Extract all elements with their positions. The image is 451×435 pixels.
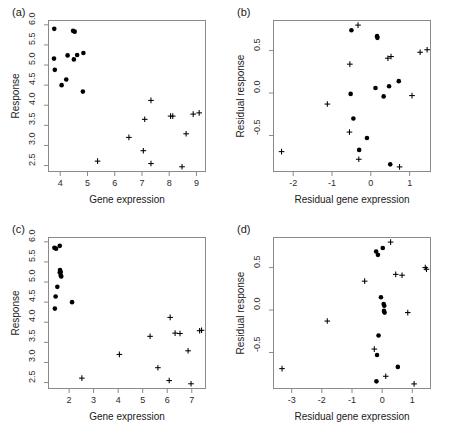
panel-d: (d) Residual gene expression Residual re…	[225, 217, 450, 434]
data-point-dot	[81, 51, 86, 56]
data-point-cross	[196, 110, 202, 116]
data-point-dot	[81, 89, 86, 94]
panel-b-yaxis-title: Residual response	[235, 55, 246, 138]
x-tick-label: 9	[194, 178, 199, 188]
data-point-dot	[70, 300, 75, 305]
data-point-cross	[95, 158, 101, 164]
data-point-cross	[399, 272, 405, 278]
data-point-dot	[396, 365, 401, 370]
data-point-cross	[347, 129, 353, 135]
x-tick-label: -1	[328, 178, 336, 188]
data-point-cross	[166, 378, 172, 384]
data-point-cross	[409, 93, 415, 99]
data-point-cross	[79, 375, 85, 381]
data-point-dot	[54, 246, 59, 251]
data-point-dot	[379, 295, 384, 300]
x-tick-label: 5	[85, 178, 90, 188]
data-point-cross	[356, 156, 362, 162]
data-point-dot	[53, 306, 58, 311]
panel-c-yaxis-title: Response	[10, 290, 21, 335]
data-point-dot	[52, 56, 57, 61]
data-point-dot	[376, 333, 381, 338]
x-tick-label: -2	[318, 395, 326, 405]
data-point-cross	[355, 22, 361, 28]
panel-c: (c) Gene expression Response 2345672.53.…	[0, 217, 225, 434]
data-point-dot	[388, 162, 393, 167]
data-point-dot	[58, 273, 63, 278]
data-point-dot	[396, 79, 401, 84]
data-point-cross	[126, 135, 132, 141]
data-point-cross	[188, 381, 194, 387]
data-point-dot	[55, 285, 60, 290]
x-tick-label: 0	[380, 395, 385, 405]
x-tick-label: -1	[348, 395, 356, 405]
data-point-cross	[362, 278, 368, 284]
data-point-dot	[382, 303, 387, 308]
data-point-dot	[365, 136, 370, 141]
data-point-dot	[65, 53, 70, 58]
data-point-cross	[397, 164, 403, 170]
panel-d-yaxis-title: Residual response	[235, 272, 246, 355]
data-point-dot	[375, 353, 380, 358]
data-point-dot	[72, 29, 77, 34]
data-point-dot	[381, 94, 386, 99]
data-point-dot	[75, 53, 80, 58]
data-point-cross	[167, 315, 173, 321]
data-point-cross	[179, 164, 185, 170]
data-point-dot	[349, 28, 354, 33]
data-point-dot	[373, 86, 378, 91]
data-point-cross	[324, 318, 330, 324]
x-tick-label: 7	[139, 178, 144, 188]
data-point-cross	[383, 373, 389, 379]
data-point-dot	[376, 253, 381, 258]
x-tick-label: 4	[58, 178, 63, 188]
data-point-cross	[279, 366, 285, 372]
x-tick-label: 8	[167, 178, 172, 188]
data-point-dot	[357, 148, 362, 153]
data-point-cross	[372, 346, 378, 352]
data-point-cross	[279, 149, 285, 155]
data-point-dot	[382, 310, 387, 315]
panel-a-xaxis-title: Gene expression	[89, 194, 165, 205]
data-point-dot	[57, 244, 62, 249]
x-tick-label: 0	[368, 178, 373, 188]
data-point-cross	[393, 272, 399, 278]
data-point-cross	[177, 331, 183, 337]
panel-b: (b) Residual gene expression Residual re…	[225, 0, 450, 217]
data-point-cross	[183, 131, 189, 137]
data-point-dot	[52, 27, 57, 32]
data-point-dot	[387, 84, 392, 89]
data-point-dot	[348, 92, 353, 97]
figure-root: { "figure": { "panels": [ { "tag": "(a)"…	[0, 0, 451, 435]
data-point-dot	[351, 116, 356, 121]
data-point-cross	[185, 348, 191, 354]
data-point-cross	[325, 101, 331, 107]
data-point-cross	[155, 365, 161, 371]
panel-d-points-layer	[225, 217, 450, 434]
data-point-dot	[59, 83, 64, 88]
data-point-cross	[147, 334, 153, 340]
data-point-cross	[117, 352, 123, 358]
x-tick-label: 1	[407, 178, 412, 188]
x-tick-label: 3	[91, 395, 96, 405]
data-point-cross	[411, 381, 417, 387]
panel-d-xaxis-title: Residual gene expression	[294, 411, 409, 422]
data-point-cross	[148, 161, 154, 167]
x-tick-label: 6	[112, 178, 117, 188]
x-tick-label: 2	[67, 395, 72, 405]
panel-b-points-layer	[225, 0, 450, 217]
x-tick-label: 7	[189, 395, 194, 405]
data-point-cross	[172, 330, 178, 336]
data-point-dot	[374, 379, 379, 384]
x-tick-label: 1	[410, 395, 415, 405]
data-point-cross	[405, 310, 411, 316]
data-point-cross	[142, 117, 148, 123]
panel-b-xaxis-title: Residual gene expression	[294, 194, 409, 205]
data-point-cross	[148, 98, 154, 104]
panel-a-yaxis-title: Response	[10, 73, 21, 118]
data-point-dot	[375, 36, 380, 41]
data-point-cross	[424, 47, 430, 53]
x-tick-label: -3	[288, 395, 296, 405]
data-point-dot	[380, 246, 385, 251]
panel-a: (a) Gene expression Response 4567892.53.…	[0, 0, 225, 217]
